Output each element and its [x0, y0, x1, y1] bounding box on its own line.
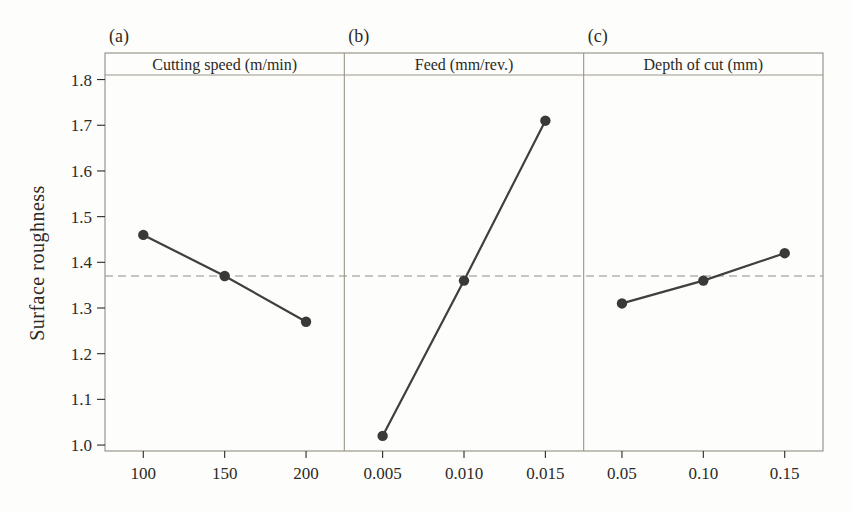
panel-header: Depth of cut (mm)	[644, 56, 764, 74]
x-tick-label: 100	[131, 464, 157, 483]
y-tick-label: 1.0	[71, 436, 92, 455]
y-axis-title: Surface roughness	[26, 185, 49, 341]
x-tick-label: 0.10	[688, 464, 718, 483]
panel-label: (b)	[348, 26, 369, 47]
y-tick-label: 1.2	[71, 345, 92, 364]
data-point	[377, 431, 387, 441]
x-tick-label: 0.15	[770, 464, 800, 483]
x-tick-label: 200	[293, 464, 319, 483]
main-effects-plot: 1.01.11.21.31.41.51.61.71.8Surface rough…	[0, 0, 852, 513]
data-point	[698, 275, 708, 285]
y-tick-label: 1.4	[71, 253, 93, 272]
x-tick-label: 0.010	[445, 464, 483, 483]
panel-header: Cutting speed (m/min)	[152, 56, 297, 74]
plot-border	[105, 53, 823, 451]
x-tick-label: 150	[212, 464, 238, 483]
data-point	[138, 230, 148, 240]
y-tick-label: 1.3	[71, 299, 92, 318]
data-point	[540, 115, 550, 125]
panel-header: Feed (mm/rev.)	[415, 56, 513, 74]
y-tick-label: 1.6	[71, 162, 92, 181]
x-tick-label: 0.005	[364, 464, 402, 483]
data-point	[780, 248, 790, 258]
panel-label: (a)	[109, 26, 129, 47]
data-point	[219, 271, 229, 281]
data-point	[301, 317, 311, 327]
y-tick-label: 1.7	[71, 116, 93, 135]
chart-canvas: 1.01.11.21.31.41.51.61.71.8Surface rough…	[0, 0, 852, 513]
y-tick-label: 1.5	[71, 208, 92, 227]
y-tick-label: 1.1	[71, 390, 92, 409]
panel-label: (c)	[588, 26, 608, 47]
x-tick-label: 0.05	[607, 464, 637, 483]
x-tick-label: 0.015	[526, 464, 564, 483]
data-point	[459, 275, 469, 285]
data-point	[617, 298, 627, 308]
y-tick-label: 1.8	[71, 71, 92, 90]
